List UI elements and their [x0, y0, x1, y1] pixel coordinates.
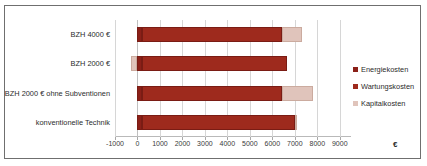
tick-label: 0	[136, 140, 140, 147]
category-label: BZH 4000 €	[71, 20, 110, 49]
legend-label: Energiekosten	[361, 65, 408, 74]
tick-label: 2000	[175, 140, 191, 147]
bar-segment-kapitalkosten[interactable]	[295, 115, 297, 130]
stacked-bar[interactable]	[137, 27, 301, 42]
stacked-bar[interactable]	[131, 56, 287, 71]
axis-unit-label: €	[393, 140, 397, 149]
legend-label: Kapitalkosten	[361, 99, 405, 108]
legend-item[interactable]: Kapitalkosten	[353, 95, 425, 112]
bar-segment-wartungskosten[interactable]	[142, 27, 282, 42]
tick-label: 3000	[197, 140, 213, 147]
legend-swatch-icon	[353, 67, 358, 72]
tick-label: 5000	[242, 140, 258, 147]
bar-segment-wartungskosten[interactable]	[142, 56, 287, 71]
category-axis-labels: BZH 4000 €BZH 2000 €BZH 2000 € ohne Subv…	[5, 20, 112, 137]
plot-area	[115, 20, 351, 137]
legend-item[interactable]: Wartungskosten	[353, 78, 425, 95]
tick-label: 9000	[332, 140, 348, 147]
tick-label: -1000	[106, 140, 124, 147]
legend-swatch-icon	[353, 101, 358, 106]
tick-label: 4000	[220, 140, 236, 147]
bar-row	[115, 108, 351, 137]
chart-frame: BZH 4000 €BZH 2000 €BZH 2000 € ohne Subv…	[4, 5, 421, 159]
value-axis: -100001000200030004000500060007000800090…	[115, 137, 351, 151]
legend-swatch-icon	[353, 84, 358, 89]
tick-label: 6000	[265, 140, 281, 147]
bar-segment-wartungskosten[interactable]	[142, 115, 295, 130]
bar-segment-kapitalkosten[interactable]	[282, 27, 301, 42]
bar-row	[115, 79, 351, 108]
bar-segment-kapitalkosten[interactable]	[282, 86, 312, 101]
bar-row	[115, 20, 351, 49]
tick-label: 7000	[287, 140, 303, 147]
bar-segment-wartungskosten[interactable]	[142, 86, 282, 101]
chart-legend: EnergiekostenWartungskostenKapitalkosten	[353, 61, 425, 112]
tick-label: 8000	[309, 140, 325, 147]
bar-segment-kapitalkosten[interactable]	[131, 56, 138, 71]
stacked-bar[interactable]	[137, 86, 312, 101]
legend-label: Wartungskosten	[361, 82, 414, 91]
legend-item[interactable]: Energiekosten	[353, 61, 425, 78]
category-label: konventionelle Technik	[36, 108, 110, 137]
stacked-bar[interactable]	[137, 115, 297, 130]
tick-label: 1000	[152, 140, 168, 147]
category-label: BZH 2000 €	[71, 49, 110, 78]
bar-row	[115, 49, 351, 78]
category-label: BZH 2000 € ohne Subventionen	[5, 79, 110, 108]
